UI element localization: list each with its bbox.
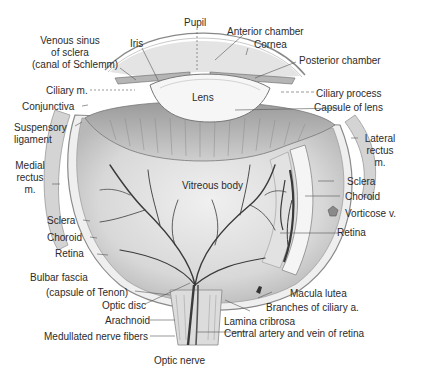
label-macula-lutea: Macula lutea [290,288,347,299]
label-cornea: Cornea [254,39,287,50]
label-suspensory-line2: ligament [14,134,52,145]
eye-anatomy-diagram: Pupil Anterior chamber Cornea Posterior … [0,0,427,372]
label-vitreous-body: Vitreous body [182,180,243,191]
label-pupil: Pupil [184,17,206,28]
label-choroid-right: Choroid [345,191,380,202]
label-branches-ciliary-artery: Branches of ciliary a. [266,302,359,313]
label-bulbar-fascia-line2: (capsule of Tenon) [46,287,128,298]
label-anterior-chamber: Anterior chamber [227,26,304,37]
label-venous-sinus-line2: of sclera [20,47,120,58]
label-lateral-rectus-line1: Lateral [360,133,400,144]
label-medial-rectus-line3: m. [10,184,50,195]
label-lamina-cribrosa: Lamina cribrosa [224,316,295,327]
label-capsule-of-lens: Capsule of lens [314,102,383,113]
label-retina-left: Retina [55,248,84,259]
label-lens: Lens [192,92,214,103]
optic-nerve [170,285,222,345]
label-sclera-right: Sclera [347,176,375,187]
label-venous-sinus-line3: (canal of Schlemm) [32,59,118,70]
label-bulbar-fascia-line1: Bulbar fascia [30,272,88,283]
label-lateral-rectus-line3: m. [360,157,400,168]
label-lateral-rectus-line2: rectus [360,145,400,156]
label-retina-right: Retina [337,227,366,238]
label-posterior-chamber: Posterior chamber [299,55,381,66]
label-suspensory-line1: Suspensory [14,122,67,133]
label-conjunctiva: Conjunctiva [22,101,74,112]
label-arachnoid: Arachnoid [105,315,150,326]
label-medullated-nerve-fibers: Medullated nerve fibers [44,331,148,342]
label-vorticose-vein: Vorticose v. [345,208,396,219]
label-central-artery-vein: Central artery and vein of retina [224,328,364,339]
label-ciliary-process: Ciliary process [316,88,382,99]
label-choroid-left: Choroid [47,232,82,243]
label-medial-rectus-line1: Medial [10,160,50,171]
label-iris: Iris [130,38,143,49]
label-optic-disc: Optic disc [102,300,146,311]
label-optic-nerve: Optic nerve [154,355,205,366]
label-sclera-left: Sclera [47,215,75,226]
label-medial-rectus-line2: rectus [10,172,50,183]
label-venous-sinus-line1: Venous sinus [20,35,120,46]
label-ciliary-muscle: Ciliary m. [46,85,88,96]
